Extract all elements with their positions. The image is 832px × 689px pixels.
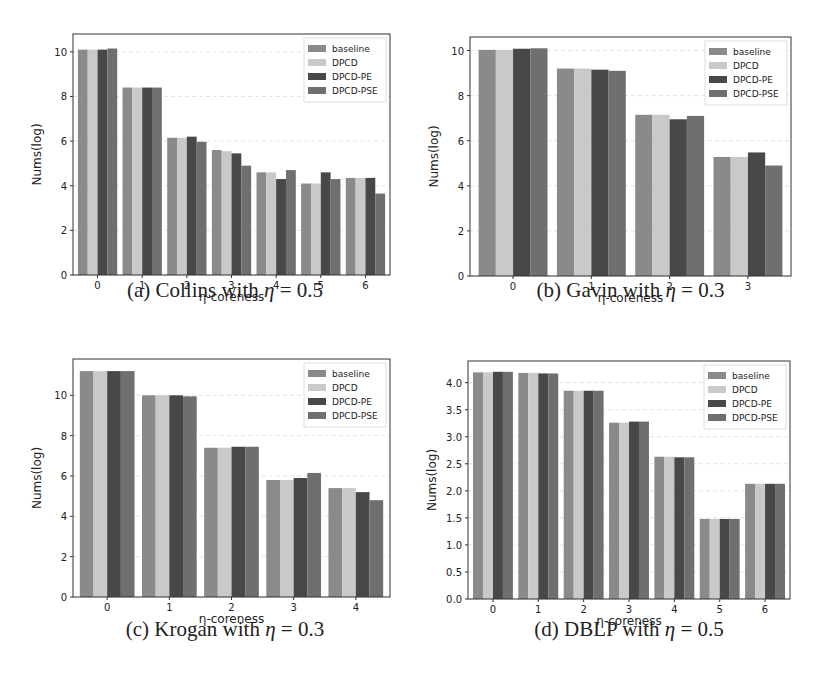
bar-chart-d: 0.00.51.01.52.02.53.03.54.00123456η-core… (0, 0, 832, 689)
bar-baseline (745, 484, 755, 599)
bar-baseline (473, 372, 483, 599)
chart-panel-d: 0.00.51.01.52.02.53.03.54.00123456η-core… (0, 0, 832, 689)
legend-label: DPCD-PSE (732, 413, 778, 423)
caption-d-text: (d) DBLP with (534, 617, 664, 641)
legend-swatch-dpcd-pe (708, 400, 726, 407)
legend-label: baseline (732, 371, 770, 381)
bar-dpcd (483, 372, 493, 599)
legend-label: DPCD-PE (732, 399, 772, 409)
bar-dpcd (755, 484, 765, 599)
y-tick-label: 2.0 (446, 486, 462, 497)
y-tick-label: 3.0 (446, 432, 462, 443)
y-tick-label: 4.0 (446, 378, 462, 389)
bar-dpcd-pse (503, 372, 513, 599)
bar-dpcd (619, 423, 629, 599)
caption-d-value: = 0.5 (675, 617, 724, 641)
bar-dpcd-pe (629, 422, 639, 599)
bar-baseline (609, 423, 619, 599)
bar-baseline (700, 519, 710, 599)
legend-swatch-dpcd (708, 386, 726, 393)
bar-dpcd-pse (639, 422, 649, 599)
bar-dpcd-pe (584, 391, 594, 599)
bar-baseline (564, 391, 574, 599)
bar-dpcd-pse (594, 391, 604, 599)
bar-dpcd-pe (720, 519, 730, 599)
x-tick-label: 1 (535, 604, 541, 615)
bar-dpcd-pse (730, 519, 740, 599)
y-tick-label: 2.5 (446, 459, 462, 470)
caption-d-eta: η (665, 617, 675, 641)
bar-dpcd-pse (775, 484, 785, 599)
y-tick-label: 0.0 (446, 594, 462, 605)
caption-d: (d) DBLP with η = 0.5 (468, 617, 790, 642)
bar-dpcd (528, 373, 538, 599)
bar-dpcd (664, 457, 674, 599)
bar-dpcd (710, 519, 720, 599)
x-tick-label: 5 (717, 604, 723, 615)
y-tick-label: 1.0 (446, 540, 462, 551)
bar-dpcd-pe (538, 373, 548, 599)
x-tick-label: 4 (671, 604, 677, 615)
x-tick-label: 2 (580, 604, 586, 615)
bar-dpcd-pse (684, 457, 694, 599)
y-tick-label: 3.5 (446, 405, 462, 416)
y-tick-label: 0.5 (446, 567, 462, 578)
x-tick-label: 0 (490, 604, 496, 615)
legend-swatch-baseline (708, 372, 726, 379)
bar-baseline (518, 373, 528, 599)
y-axis-label: Nums(log) (425, 449, 439, 511)
legend-label: DPCD (732, 385, 758, 395)
bar-dpcd (574, 391, 584, 599)
bar-dpcd-pe (674, 457, 684, 599)
bar-dpcd-pse (548, 373, 558, 599)
y-tick-label: 1.5 (446, 513, 462, 524)
bar-baseline (654, 457, 664, 599)
legend-swatch-dpcd-pse (708, 414, 726, 421)
bar-dpcd-pe (765, 484, 775, 599)
x-tick-label: 6 (762, 604, 768, 615)
bar-dpcd-pe (493, 372, 503, 599)
